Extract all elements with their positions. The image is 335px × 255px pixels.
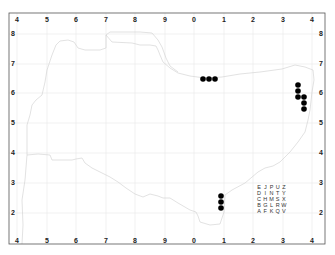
y-tick-label: 8 bbox=[11, 30, 15, 37]
y-tick-label: 2 bbox=[319, 209, 323, 216]
x-tick-label: 9 bbox=[163, 237, 167, 244]
record-dot bbox=[218, 193, 224, 199]
record-dot bbox=[295, 88, 301, 94]
y-tick-label: 8 bbox=[319, 30, 323, 37]
record-dot bbox=[212, 76, 218, 82]
record-dot bbox=[218, 205, 224, 211]
record-dot bbox=[301, 100, 307, 106]
y-tick-label: 2 bbox=[11, 209, 15, 216]
x-tick-label: 3 bbox=[281, 16, 285, 23]
map-canvas bbox=[0, 0, 335, 255]
x-tick-label: 6 bbox=[74, 237, 78, 244]
y-tick-label: 4 bbox=[11, 149, 15, 156]
record-dot bbox=[295, 82, 301, 88]
x-tick-label: 4 bbox=[15, 16, 19, 23]
tetrad-key: EJPUZDINTYCHMSXBGLRWAFKQV bbox=[256, 184, 287, 214]
y-tick-label: 3 bbox=[319, 179, 323, 186]
y-tick-label: 4 bbox=[319, 149, 323, 156]
x-tick-label: 3 bbox=[281, 237, 285, 244]
record-dot bbox=[301, 106, 307, 112]
x-tick-label: 2 bbox=[251, 16, 255, 23]
x-tick-label: 1 bbox=[222, 16, 226, 23]
tetrad-letter: V bbox=[281, 208, 287, 214]
y-tick-label: 5 bbox=[319, 119, 323, 126]
x-tick-label: 4 bbox=[15, 237, 19, 244]
x-tick-label: 8 bbox=[133, 16, 137, 23]
x-tick-label: 1 bbox=[222, 237, 226, 244]
x-tick-label: 8 bbox=[133, 237, 137, 244]
x-tick-label: 4 bbox=[310, 16, 314, 23]
distribution-map: EJPUZDINTYCHMSXBGLRWAFKQV bbox=[0, 0, 335, 255]
x-tick-label: 7 bbox=[104, 16, 108, 23]
y-tick-label: 3 bbox=[11, 179, 15, 186]
x-tick-label: 5 bbox=[45, 237, 49, 244]
record-dot bbox=[218, 199, 224, 205]
x-tick-label: 0 bbox=[192, 237, 196, 244]
x-tick-label: 5 bbox=[45, 16, 49, 23]
x-tick-label: 0 bbox=[192, 16, 196, 23]
record-dot bbox=[200, 76, 206, 82]
x-tick-label: 4 bbox=[310, 237, 314, 244]
x-tick-label: 2 bbox=[251, 237, 255, 244]
x-tick-label: 6 bbox=[74, 16, 78, 23]
x-tick-label: 9 bbox=[163, 16, 167, 23]
x-tick-label: 7 bbox=[104, 237, 108, 244]
y-tick-label: 6 bbox=[11, 89, 15, 96]
y-tick-label: 7 bbox=[11, 60, 15, 67]
record-dots bbox=[200, 76, 307, 211]
record-dot bbox=[206, 76, 212, 82]
y-tick-label: 6 bbox=[319, 89, 323, 96]
tetrad-key-row: AFKQV bbox=[256, 208, 287, 214]
record-dot bbox=[295, 94, 301, 100]
y-tick-label: 7 bbox=[319, 60, 323, 67]
record-dot bbox=[301, 94, 307, 100]
y-tick-label: 5 bbox=[11, 119, 15, 126]
